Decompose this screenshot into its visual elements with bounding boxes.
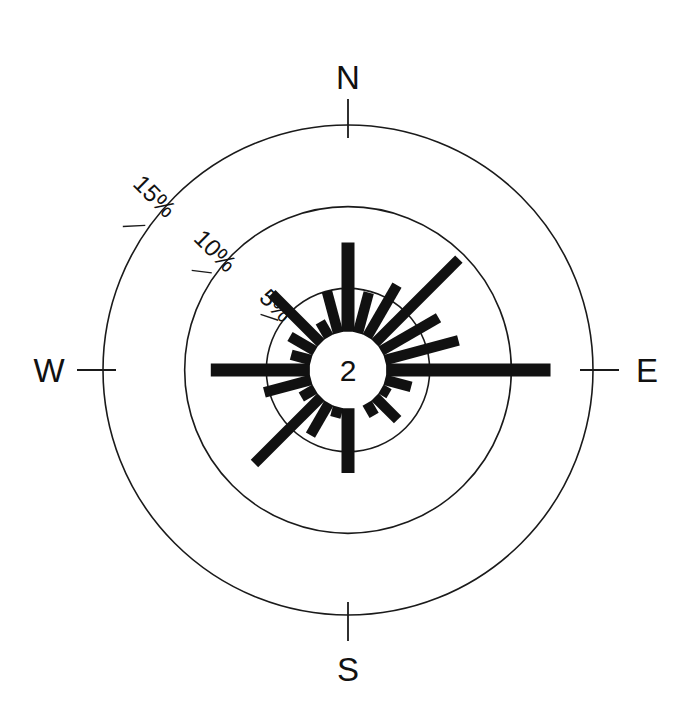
- rose-petals: [211, 243, 551, 473]
- cardinal-label-north: N: [336, 59, 360, 96]
- ring-labels: 5%10%15%: [123, 169, 298, 327]
- petal-135deg: [375, 397, 398, 420]
- ring-label-leader-ring-15: [123, 225, 145, 226]
- petal-120deg: [381, 389, 389, 394]
- rose-diagram-canvas: 2 5%10%15% NESW: [0, 0, 674, 709]
- cardinal-label-south: S: [337, 651, 359, 688]
- ring-label-ring-10: 10%: [189, 224, 242, 277]
- petal-330deg: [320, 322, 329, 337]
- ring-label-leader-ring-10: [192, 270, 212, 272]
- petal-240deg: [301, 389, 315, 397]
- ring-label-ring-15: 15%: [128, 169, 181, 222]
- cardinal-label-east: E: [636, 352, 658, 389]
- rose-diagram-figure: 2 5%10%15% NESW: [0, 0, 674, 709]
- petal-285deg: [291, 355, 311, 360]
- petal-195deg: [335, 407, 338, 417]
- center-hub-label: 2: [340, 354, 357, 387]
- cardinal-label-west: W: [33, 352, 65, 389]
- petal-105deg: [385, 380, 411, 387]
- petal-150deg: [367, 403, 374, 415]
